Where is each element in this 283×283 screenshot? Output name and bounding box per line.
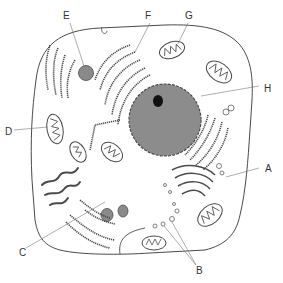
label-f: F [145, 10, 151, 21]
golgi-apparatus [172, 165, 215, 196]
membrane-invagination [120, 228, 145, 254]
lysosome-lower-2 [118, 205, 128, 217]
mitochondrion-center [98, 138, 127, 166]
animal-cell-diagram: A B C D E F G H [0, 0, 283, 283]
smooth-er [42, 168, 80, 205]
mitochondrion-lower-right [193, 199, 226, 231]
label-a: A [265, 163, 272, 174]
vesicle [217, 164, 222, 169]
label-h: H [264, 83, 271, 94]
label-d: D [5, 126, 12, 137]
mitochondrion-right [202, 57, 235, 88]
label-c: C [19, 247, 26, 258]
mitochondrion-d [45, 113, 66, 145]
small-vesicles [153, 184, 179, 229]
label-e: E [63, 10, 70, 21]
lysosome [79, 66, 94, 81]
vesicle [223, 109, 229, 115]
rough-er-lower [66, 200, 115, 248]
mitochondrion-center-left [66, 139, 89, 165]
label-g: G [185, 10, 193, 21]
mitochondrion-bottom [142, 236, 166, 250]
nucleolus [153, 95, 163, 107]
vesicle [220, 171, 224, 175]
label-b: B [196, 265, 203, 276]
lysosome-lower-1 [101, 209, 113, 222]
mitochondrion-g [157, 38, 187, 62]
vesicle [228, 105, 234, 111]
nucleus [129, 84, 201, 156]
